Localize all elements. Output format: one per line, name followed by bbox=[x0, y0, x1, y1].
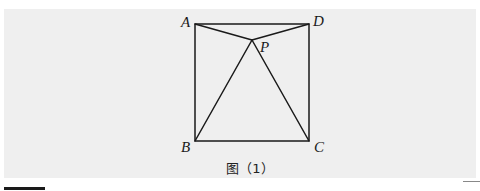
segment-bp bbox=[195, 40, 252, 141]
label-d: D bbox=[312, 13, 324, 29]
label-b: B bbox=[181, 139, 190, 155]
figure-caption: 图（1） bbox=[0, 158, 480, 177]
divider-bar-left bbox=[4, 187, 45, 190]
square-abcd bbox=[195, 24, 309, 141]
segment-cp bbox=[252, 40, 309, 141]
divider-bar-right bbox=[463, 181, 480, 182]
label-p: P bbox=[259, 39, 269, 55]
label-c: C bbox=[314, 139, 325, 155]
segment-dp bbox=[252, 24, 309, 40]
segment-ap bbox=[195, 24, 252, 40]
label-a: A bbox=[180, 14, 191, 30]
